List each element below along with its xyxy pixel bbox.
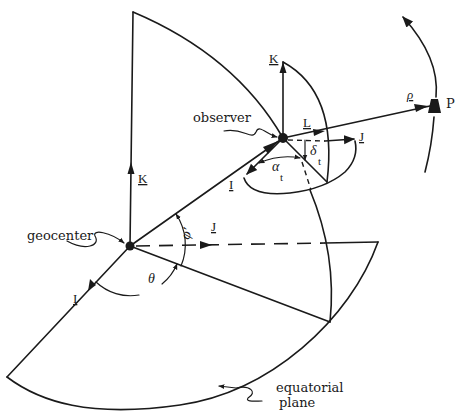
main-k-label: K bbox=[138, 171, 148, 186]
rho-arrow-icon bbox=[414, 104, 428, 112]
local-horizon-arc bbox=[244, 141, 356, 194]
geocentric-observer-diagram: observer geocenter equatorial plane K K … bbox=[0, 0, 468, 412]
delta-subscript: t bbox=[318, 155, 321, 167]
delta-label: δ bbox=[310, 143, 317, 158]
observer-label: observer bbox=[193, 110, 252, 125]
target-p-icon bbox=[428, 99, 441, 113]
diagram-svg: observer geocenter equatorial plane K K … bbox=[0, 0, 468, 412]
geocenter-label: geocenter bbox=[27, 228, 94, 243]
geocenter-observer-arrow-icon bbox=[263, 141, 278, 154]
observer-meridian-arc bbox=[310, 190, 331, 322]
alpha-label: α bbox=[272, 159, 280, 174]
main-j-axis-dashed bbox=[136, 243, 325, 246]
local-j-label: J bbox=[359, 129, 364, 144]
observer-leader bbox=[224, 129, 277, 137]
equator-radius-line bbox=[325, 242, 378, 243]
target-path-arc-lower bbox=[425, 117, 434, 172]
observer-point bbox=[278, 133, 288, 143]
main-i-arrow-icon bbox=[88, 279, 96, 291]
main-k-axis bbox=[130, 12, 133, 246]
equatorial-label: equatorial bbox=[276, 380, 343, 395]
main-i-label: I bbox=[73, 291, 77, 306]
target-path-arc-upper bbox=[403, 17, 436, 97]
main-j-label: J bbox=[211, 219, 216, 234]
local-i-label: I bbox=[229, 177, 233, 192]
local-j-axis bbox=[325, 139, 354, 141]
rho-label: ρ bbox=[406, 87, 413, 102]
local-k-label: K bbox=[269, 51, 279, 66]
phi-angle-arc bbox=[176, 214, 185, 266]
theta-angle-arc-right bbox=[162, 264, 177, 284]
p-label: P bbox=[446, 96, 455, 111]
main-i-axis bbox=[7, 246, 130, 377]
main-k-arrow-icon bbox=[128, 162, 135, 174]
geocenter-point bbox=[126, 242, 135, 251]
theta-direction-line bbox=[130, 246, 330, 322]
local-j-axis-dashed bbox=[288, 140, 325, 141]
alpha-angle-arc bbox=[259, 157, 300, 163]
theta-label: θ bbox=[148, 271, 155, 286]
plane-label: plane bbox=[279, 395, 316, 410]
phi-label: φ' bbox=[177, 225, 195, 241]
theta-angle-arc-left bbox=[96, 282, 139, 296]
projection-dashed-line bbox=[302, 162, 311, 190]
l-label: L bbox=[303, 115, 311, 130]
main-j-arrow-icon bbox=[200, 241, 212, 249]
alpha-subscript: t bbox=[280, 171, 283, 183]
